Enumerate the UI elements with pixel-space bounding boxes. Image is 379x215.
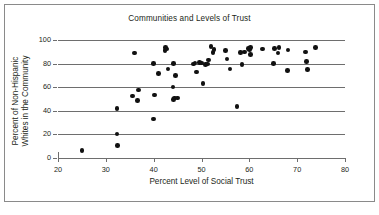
chart-figure: Communities and Levels of Trust Percent … xyxy=(0,0,379,215)
data-point xyxy=(166,67,171,72)
y-tick-20: 20 xyxy=(26,130,51,138)
data-point xyxy=(132,51,137,56)
data-point xyxy=(285,68,290,73)
x-axis-label: Percent Level of Social Trust xyxy=(58,177,345,186)
data-point xyxy=(135,98,140,103)
x-tick-mark-80 xyxy=(345,158,346,162)
data-point xyxy=(240,62,245,67)
data-point xyxy=(271,61,276,66)
y-axis-label-line-2: Whites in the Community xyxy=(21,31,31,171)
x-tick-label-30: 30 xyxy=(91,165,121,174)
y-tick-label-20: 20 xyxy=(29,130,51,138)
data-point xyxy=(248,52,253,57)
data-point xyxy=(80,148,85,153)
data-point xyxy=(206,58,211,63)
data-point xyxy=(277,45,282,50)
y-axis-label: Percent of Non-Hispanic Whites in the Co… xyxy=(11,31,31,171)
data-point xyxy=(304,59,309,64)
data-point xyxy=(260,47,265,52)
data-point xyxy=(223,48,228,53)
x-tick-mark-20 xyxy=(58,158,59,162)
data-point xyxy=(305,67,310,72)
x-tick-label-70: 70 xyxy=(282,165,312,174)
data-point xyxy=(130,94,135,99)
y-tick-40: 40 xyxy=(26,107,51,115)
data-point xyxy=(156,71,161,76)
y-tick-mark-80 xyxy=(53,64,57,65)
x-tick-label-50: 50 xyxy=(187,165,217,174)
x-tick-label-40: 40 xyxy=(139,165,169,174)
data-point xyxy=(276,51,281,56)
y-axis-label-line-1: Percent of Non-Hispanic xyxy=(11,31,21,171)
y-tick-mark-0 xyxy=(53,158,57,159)
y-tick-60: 60 xyxy=(26,83,51,91)
data-point xyxy=(235,104,240,109)
gridline-y-20 xyxy=(58,134,345,135)
y-tick-label-80: 80 xyxy=(29,60,51,68)
data-point xyxy=(212,47,217,52)
data-point xyxy=(248,45,253,50)
y-tick-100: 100 xyxy=(26,36,51,44)
x-tick-mark-40 xyxy=(154,158,155,162)
data-point xyxy=(313,45,318,50)
data-point xyxy=(225,57,230,62)
gridline-y-100 xyxy=(58,40,345,41)
data-point xyxy=(152,93,157,98)
data-point xyxy=(286,48,291,53)
x-tick-mark-30 xyxy=(106,158,107,162)
data-point xyxy=(175,96,180,101)
y-tick-label-0: 0 xyxy=(29,154,51,162)
data-point xyxy=(115,106,120,111)
x-tick-label-20: 20 xyxy=(43,165,73,174)
y-tick-label-100: 100 xyxy=(29,36,51,44)
data-point xyxy=(173,73,178,78)
y-tick-mark-40 xyxy=(53,111,57,112)
x-tick-label-60: 60 xyxy=(234,165,264,174)
y-tick-label-60: 60 xyxy=(29,83,51,91)
gridline-y-40 xyxy=(58,111,345,112)
y-tick-0: 0 xyxy=(26,154,51,162)
x-tick-label-80: 80 xyxy=(330,165,360,174)
data-point xyxy=(228,67,233,72)
data-point xyxy=(136,88,141,93)
data-point xyxy=(194,70,199,75)
data-point xyxy=(171,85,176,90)
data-point xyxy=(151,117,156,122)
data-point xyxy=(201,81,206,86)
data-point xyxy=(171,61,176,66)
x-tick-mark-60 xyxy=(249,158,250,162)
chart-title: Communities and Levels of Trust xyxy=(0,14,379,23)
y-tick-mark-100 xyxy=(53,40,57,41)
data-point xyxy=(303,50,308,55)
data-point xyxy=(151,61,156,66)
y-tick-mark-60 xyxy=(53,87,57,88)
y-tick-80: 80 xyxy=(26,60,51,68)
data-point xyxy=(115,143,120,148)
gridline-y-60 xyxy=(58,87,345,88)
y-tick-mark-20 xyxy=(53,134,57,135)
x-tick-mark-70 xyxy=(297,158,298,162)
data-point xyxy=(115,132,120,137)
y-tick-label-40: 40 xyxy=(29,107,51,115)
plot-area xyxy=(58,40,345,158)
data-point xyxy=(205,62,210,67)
data-point xyxy=(164,47,169,52)
x-tick-mark-50 xyxy=(202,158,203,162)
